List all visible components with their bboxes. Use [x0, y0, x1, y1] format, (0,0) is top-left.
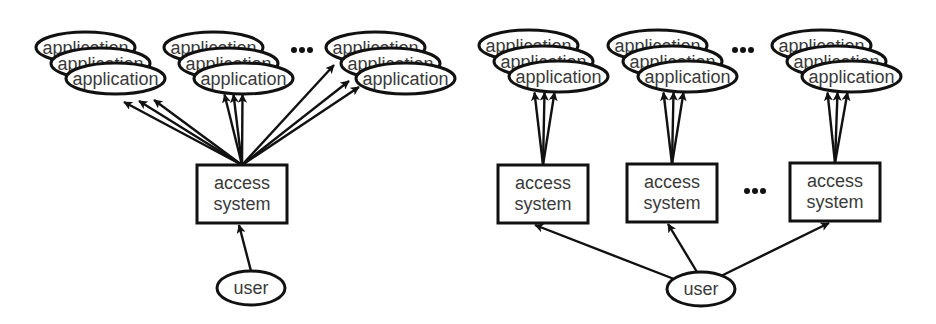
- access-system-node: accesssystem: [197, 165, 287, 223]
- access-system-node: accesssystem: [790, 163, 880, 221]
- application-label: application: [200, 69, 286, 89]
- application-group: applicationapplicationapplication: [608, 30, 737, 92]
- dot: [740, 47, 746, 53]
- system-label: system: [806, 192, 863, 212]
- application-node: application: [802, 61, 901, 92]
- application-label: application: [644, 67, 730, 87]
- user-label: user: [683, 279, 718, 299]
- access-system-node: accesssystem: [498, 165, 588, 223]
- application-group: applicationapplicationapplication: [479, 30, 608, 92]
- arrow-edge: [535, 93, 544, 166]
- arrow-edge: [828, 93, 836, 164]
- dot: [752, 188, 758, 194]
- application-label: application: [515, 67, 601, 87]
- system-label: system: [213, 194, 270, 214]
- application-group: applicationapplicationapplication: [36, 32, 165, 94]
- dot: [744, 188, 750, 194]
- application-node: application: [638, 61, 737, 92]
- user-node: user: [217, 271, 285, 305]
- application-label: application: [362, 69, 448, 89]
- application-node: application: [356, 63, 455, 94]
- user-node: user: [667, 272, 735, 306]
- arrow-edge: [234, 95, 243, 166]
- arrow-edge: [239, 225, 251, 271]
- application-node: application: [66, 63, 165, 94]
- nodes: applicationapplicationapplicationapplica…: [36, 30, 901, 306]
- ellipsis-dots: [744, 188, 766, 194]
- multiple-access-systems: applicationapplicationapplicationapplica…: [479, 30, 901, 306]
- application-node: application: [509, 61, 608, 92]
- arrow-edge: [124, 102, 242, 165]
- application-label: application: [808, 67, 894, 87]
- dot: [748, 47, 754, 53]
- application-group: applicationapplicationapplication: [164, 32, 293, 94]
- access-system-diagram: applicationapplicationapplicationapplica…: [0, 0, 936, 324]
- arrow-edge: [668, 224, 697, 272]
- access-label: access: [214, 173, 270, 193]
- arrow-edge: [242, 87, 359, 165]
- dot: [299, 47, 305, 53]
- access-label: access: [807, 171, 863, 191]
- arrow-edge: [535, 225, 674, 279]
- access-system-node: accesssystem: [627, 164, 717, 222]
- application-label: application: [72, 69, 158, 89]
- application-node: application: [194, 63, 293, 94]
- access-label: access: [515, 173, 571, 193]
- arrow-edge: [242, 95, 243, 166]
- access-label: access: [644, 172, 700, 192]
- dot: [760, 188, 766, 194]
- system-label: system: [514, 194, 571, 214]
- system-label: system: [643, 193, 700, 213]
- arrow-edge: [721, 223, 829, 276]
- application-group: applicationapplicationapplication: [772, 30, 901, 92]
- arrow-edge: [139, 101, 242, 165]
- dot: [307, 47, 313, 53]
- ellipsis-dots: [732, 47, 754, 53]
- dot: [291, 47, 297, 53]
- dot: [732, 47, 738, 53]
- ellipsis-dots: [291, 47, 313, 53]
- user-label: user: [233, 278, 268, 298]
- single-access-system: applicationapplicationapplicationapplica…: [36, 32, 455, 305]
- arrow-edge: [664, 93, 673, 165]
